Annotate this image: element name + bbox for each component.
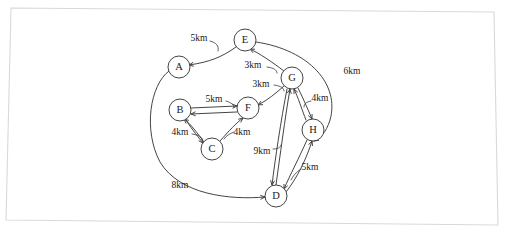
node-label: F [245, 102, 251, 113]
node-h[interactable]: H [302, 119, 324, 141]
edge-e-a [189, 41, 236, 66]
node-f[interactable]: F [237, 97, 259, 119]
edge-path [272, 89, 287, 185]
node-g[interactable]: G [281, 67, 303, 89]
edge-weight-label: 8km [172, 180, 190, 190]
node-layer: ABCDEFGH [168, 29, 324, 207]
diagram-canvas: ABCDEFGH 5km3km3km5km4km4km9km4km5km6km8… [0, 0, 511, 233]
edge-weight-label: 3km [245, 60, 263, 70]
node-a[interactable]: A [168, 56, 190, 78]
edge-path [191, 112, 237, 114]
edge-weight-label: 6km [344, 66, 362, 76]
edge-path [189, 47, 236, 65]
edge-weight-label: 5km [191, 33, 209, 43]
node-e[interactable]: E [234, 29, 256, 51]
edge-weight-label: 5km [302, 162, 320, 172]
edge-path [276, 89, 290, 185]
node-label: H [309, 124, 317, 135]
edge-weight-label: 5km [206, 94, 224, 104]
edge-path [191, 106, 237, 108]
edge-label-leader [267, 67, 277, 73]
edge-weight-label: 3km [253, 79, 271, 89]
node-label: E [242, 34, 248, 45]
edge-g-d [271, 89, 287, 185]
edge-weight-label: 4km [312, 93, 330, 103]
node-label: C [208, 143, 215, 154]
node-b[interactable]: B [169, 99, 191, 121]
node-label: B [176, 104, 183, 115]
node-label: G [288, 72, 296, 83]
node-c[interactable]: C [201, 138, 223, 160]
edge-weight-label: 9km [254, 146, 272, 156]
graph-svg: ABCDEFGH 5km3km3km5km4km4km9km4km5km6km8… [0, 0, 511, 233]
node-d[interactable]: D [265, 185, 287, 207]
edge-f-b [191, 112, 237, 116]
edge-weight-label: 4km [234, 127, 252, 137]
node-label: A [175, 61, 183, 72]
edge-label-leader [210, 41, 218, 51]
node-label: D [272, 190, 280, 201]
edge-weight-label: 4km [172, 127, 190, 137]
edge-label-layer: 5km3km3km5km4km4km9km4km5km6km8km [172, 33, 362, 190]
